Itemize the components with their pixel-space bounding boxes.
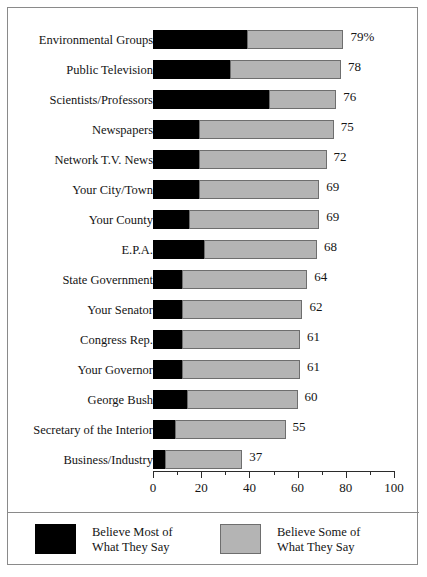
bar-segment-believe-most bbox=[153, 150, 199, 169]
category-label: Your Senator bbox=[0, 303, 153, 317]
bar-segment-believe-some bbox=[182, 330, 300, 349]
stacked-bar bbox=[153, 450, 394, 469]
bar-segment-believe-some bbox=[187, 390, 298, 409]
chart-row: Newspapers75 bbox=[8, 115, 419, 145]
category-label: Business/Industry bbox=[0, 453, 153, 467]
stacked-bar bbox=[153, 180, 394, 199]
legend-label-line1: Believe Some of bbox=[277, 525, 360, 540]
bar-segment-believe-most bbox=[153, 300, 182, 319]
bar-segment-believe-most bbox=[153, 60, 230, 79]
bar-segment-believe-most bbox=[153, 270, 182, 289]
category-label: Your City/Town bbox=[0, 183, 153, 197]
category-label: Newspapers bbox=[0, 123, 153, 137]
bar-value-label: 69 bbox=[326, 208, 339, 225]
x-axis-tick-label: 20 bbox=[195, 480, 208, 496]
bar-segment-believe-most bbox=[153, 120, 199, 139]
category-label: Network T.V. News bbox=[0, 153, 153, 167]
x-axis-tick bbox=[346, 471, 347, 478]
legend-label-line1: Believe Most of bbox=[92, 525, 173, 540]
black-swatch bbox=[35, 524, 76, 554]
bar-segment-believe-some bbox=[204, 240, 317, 259]
stacked-bar bbox=[153, 390, 394, 409]
bar-value-label: 69 bbox=[326, 178, 339, 195]
bar-segment-believe-most bbox=[153, 330, 182, 349]
stacked-bar bbox=[153, 150, 394, 169]
bar-value-label: 72 bbox=[334, 148, 347, 165]
bar-segment-believe-most bbox=[153, 240, 204, 259]
bar-value-label: 55 bbox=[293, 418, 306, 435]
category-label: Scientists/Professors bbox=[0, 93, 153, 107]
stacked-bar bbox=[153, 360, 394, 379]
chart-row: Your Senator62 bbox=[8, 295, 419, 325]
bar-segment-believe-some bbox=[269, 90, 336, 109]
bar-segment-believe-some bbox=[182, 300, 303, 319]
category-label: George Bush bbox=[0, 393, 153, 407]
bar-value-label: 60 bbox=[305, 388, 318, 405]
legend-label-believe-some: Believe Some of What They Say bbox=[277, 524, 360, 555]
bar-value-label: 37 bbox=[249, 448, 262, 465]
chart-row: Secretary of the Interior55 bbox=[8, 415, 419, 445]
bar-segment-believe-some bbox=[189, 210, 319, 229]
category-label: Public Television bbox=[0, 63, 153, 77]
bar-value-label: 61 bbox=[307, 358, 320, 375]
stacked-bar bbox=[153, 210, 394, 229]
bar-value-label: 78 bbox=[348, 58, 361, 75]
legend-item-believe-some: Believe Some of What They Say bbox=[220, 524, 360, 555]
x-axis-minor-tick bbox=[225, 471, 226, 475]
bar-segment-believe-most bbox=[153, 30, 247, 49]
bar-segment-believe-most bbox=[153, 420, 175, 439]
x-axis: 020406080100 bbox=[153, 471, 394, 511]
bar-value-label: 75 bbox=[341, 118, 354, 135]
chart-row: Your County69 bbox=[8, 205, 419, 235]
bar-value-label: 61 bbox=[307, 328, 320, 345]
x-axis-tick bbox=[201, 471, 202, 478]
x-axis-minor-tick bbox=[177, 471, 178, 475]
category-label: Secretary of the Interior bbox=[0, 423, 153, 437]
stacked-bar bbox=[153, 330, 394, 349]
bar-segment-believe-most bbox=[153, 210, 189, 229]
bar-segment-believe-some bbox=[199, 150, 327, 169]
bar-value-label: 62 bbox=[309, 298, 322, 315]
bar-segment-believe-most bbox=[153, 360, 182, 379]
x-axis-tick-label: 80 bbox=[339, 480, 352, 496]
bar-value-label: 64 bbox=[314, 268, 327, 285]
stacked-bar bbox=[153, 420, 394, 439]
bar-segment-believe-most bbox=[153, 390, 187, 409]
category-label: Environmental Groups bbox=[0, 33, 153, 47]
x-axis-tick-label: 100 bbox=[384, 480, 404, 496]
category-label: Your County bbox=[0, 213, 153, 227]
x-axis-minor-tick bbox=[274, 471, 275, 475]
chart-row: George Bush60 bbox=[8, 385, 419, 415]
x-axis-minor-tick bbox=[370, 471, 371, 475]
chart-frame: Environmental Groups79%Public Television… bbox=[7, 7, 418, 565]
chart-row: Your Governor61 bbox=[8, 355, 419, 385]
bar-segment-believe-some bbox=[199, 180, 320, 199]
chart-legend: Believe Most of What They Say Believe So… bbox=[8, 513, 419, 565]
category-label: Your Governor bbox=[0, 363, 153, 377]
bar-segment-believe-most bbox=[153, 450, 165, 469]
plot-area: Environmental Groups79%Public Television… bbox=[8, 8, 419, 491]
x-axis-tick bbox=[394, 471, 395, 478]
bar-value-label: 79% bbox=[350, 28, 374, 45]
chart-row: E.P.A.68 bbox=[8, 235, 419, 265]
chart-row: Network T.V. News72 bbox=[8, 145, 419, 175]
category-label: E.P.A. bbox=[0, 243, 153, 257]
chart-row: Scientists/Professors76 bbox=[8, 85, 419, 115]
stacked-bar bbox=[153, 270, 394, 289]
bar-segment-believe-some bbox=[247, 30, 343, 49]
bar-segment-believe-some bbox=[165, 450, 242, 469]
legend-label-line2: What They Say bbox=[92, 540, 173, 555]
chart-row: Public Television78 bbox=[8, 55, 419, 85]
x-axis-tick bbox=[249, 471, 250, 478]
bar-segment-believe-most bbox=[153, 90, 269, 109]
bar-segment-believe-some bbox=[199, 120, 334, 139]
x-axis-tick-label: 40 bbox=[243, 480, 256, 496]
chart-row: State Government64 bbox=[8, 265, 419, 295]
x-axis-tick-label: 0 bbox=[150, 480, 157, 496]
x-axis-tick-label: 60 bbox=[291, 480, 304, 496]
x-axis-tick bbox=[298, 471, 299, 478]
stacked-bar bbox=[153, 120, 394, 139]
stacked-bar bbox=[153, 90, 394, 109]
chart-row: Congress Rep.61 bbox=[8, 325, 419, 355]
legend-item-believe-most: Believe Most of What They Say bbox=[35, 524, 173, 555]
